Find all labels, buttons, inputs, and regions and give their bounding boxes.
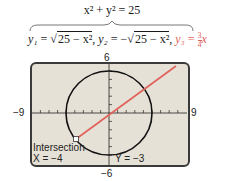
- y-max-label: 6: [104, 52, 110, 63]
- y3-eq: =: [188, 32, 198, 46]
- trace-label: Intersection: [33, 142, 85, 153]
- y2-sqrt: 25 − x²: [134, 31, 169, 46]
- y3-label: y₃: [175, 32, 185, 46]
- intersection-marker: [74, 137, 79, 142]
- y1-eq: =: [41, 32, 51, 46]
- brace: [30, 21, 193, 31]
- y1-sqrt: 25 − x²: [57, 31, 92, 46]
- x-min-label: −9: [13, 107, 24, 118]
- y2-comma: ,: [169, 32, 172, 46]
- x-max-label: 9: [191, 107, 197, 118]
- y1-comma: ,: [92, 32, 95, 46]
- y2-label: y₂: [98, 32, 108, 46]
- y2-eq: = −: [111, 32, 128, 46]
- y-min-label: −6: [101, 168, 112, 179]
- x-readout: X = −4: [33, 153, 62, 164]
- y3-expression: y₃ = 34x: [175, 32, 207, 46]
- y3-var: x: [202, 32, 207, 46]
- y1-label: y₁: [28, 32, 38, 46]
- function-definitions: y₁ = √25 − x², y₂ = −√25 − x², y₃ = 34x: [28, 32, 207, 49]
- y-readout: Y = −3: [115, 153, 144, 164]
